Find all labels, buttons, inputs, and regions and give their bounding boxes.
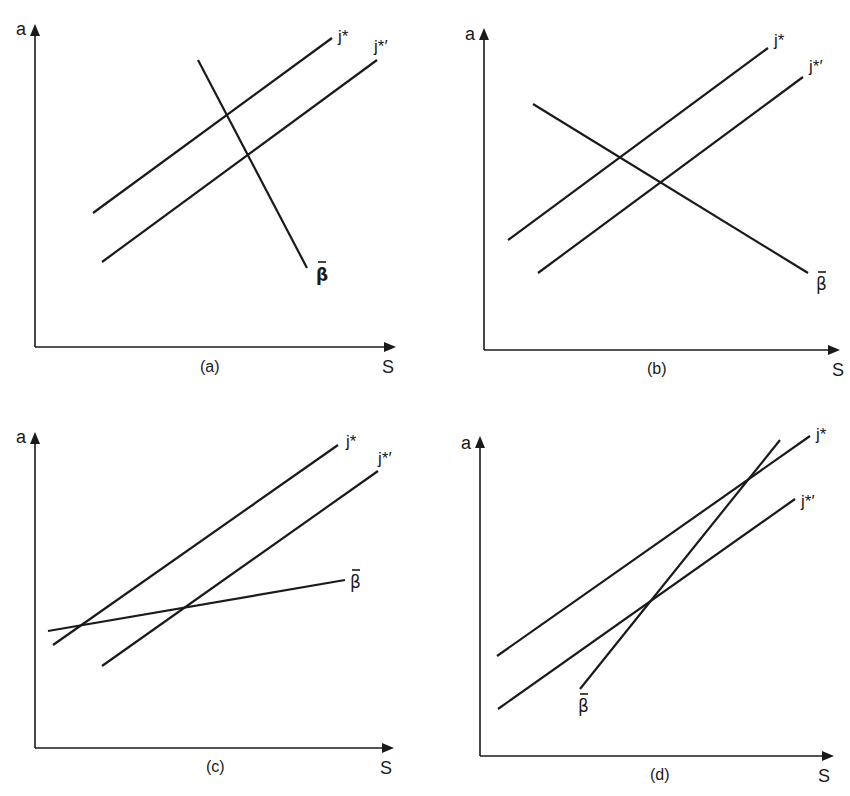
line-beta-bar — [198, 60, 307, 268]
line-j-star-prime — [538, 77, 803, 273]
x-axis-label: S — [818, 766, 830, 786]
label-j-star: j* — [815, 425, 827, 444]
label-j-star-prime: j*′ — [800, 492, 815, 511]
y-axis-arrow-icon — [479, 28, 489, 40]
label-j-star-prime: j*′ — [808, 57, 823, 76]
y-axis-arrow-icon — [30, 24, 40, 36]
panel-c: a S (c) j* j*′ β — [16, 427, 394, 778]
x-axis-label: S — [832, 360, 844, 380]
line-j-star — [497, 436, 810, 656]
label-j-star: j* — [337, 27, 349, 46]
figure-canvas: a S (a) j* j*′ β a S (b) j* j*′ β a S (c… — [0, 0, 850, 796]
label-j-star-prime: j*′ — [373, 37, 388, 56]
label-j-star: j* — [345, 432, 357, 451]
panel-caption: (d) — [650, 766, 670, 783]
y-axis-label: a — [16, 427, 27, 447]
panel-caption: (c) — [206, 758, 225, 775]
line-j-star-prime — [102, 471, 378, 666]
line-j-star — [53, 445, 338, 645]
line-beta-bar — [533, 104, 808, 273]
line-j-star — [508, 48, 768, 240]
y-axis-label: a — [465, 24, 476, 44]
y-axis-label: a — [461, 433, 472, 453]
y-axis-arrow-icon — [30, 432, 40, 444]
x-axis-arrow-icon — [384, 342, 396, 352]
x-axis-label: S — [382, 357, 394, 377]
label-j-star-prime: j*′ — [377, 449, 392, 468]
line-beta-bar — [580, 440, 780, 689]
label-beta-bar: β — [316, 265, 328, 285]
panel-b: a S (b) j* j*′ β — [465, 24, 844, 380]
x-axis-label: S — [380, 758, 392, 778]
line-j-star — [93, 38, 332, 213]
line-beta-bar — [48, 580, 345, 631]
x-axis-arrow-icon — [382, 743, 394, 753]
line-j-star-prime — [498, 499, 795, 709]
label-beta-bar: β — [816, 274, 827, 294]
x-axis-arrow-icon — [828, 345, 840, 355]
panel-d: a S (d) j* j*′ β — [461, 425, 834, 786]
panel-a: a S (a) j* j*′ β — [16, 19, 396, 377]
label-beta-bar: β — [578, 696, 589, 716]
line-j-star-prime — [102, 60, 377, 262]
label-j-star: j* — [773, 31, 785, 50]
panel-caption: (b) — [647, 360, 667, 377]
x-axis-arrow-icon — [822, 751, 834, 761]
y-axis-label: a — [16, 19, 27, 39]
label-beta-bar: β — [350, 572, 361, 592]
y-axis-arrow-icon — [475, 436, 485, 448]
panel-caption: (a) — [200, 358, 220, 375]
